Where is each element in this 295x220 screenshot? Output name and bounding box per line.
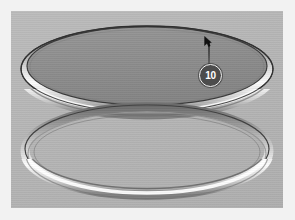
model-scene (11, 11, 283, 208)
arrow-cursor-icon (204, 36, 212, 47)
model-viewport[interactable]: 3D Model Viewport (11, 11, 283, 208)
callout-balloon[interactable]: 10 (199, 64, 222, 87)
viewer-frame: 3D Model Viewport (0, 0, 295, 220)
top-ring-group (21, 26, 273, 116)
torus-model-graphic (11, 11, 283, 208)
callout-balloon-label: 10 (205, 71, 216, 81)
screenshot-root: 3D Model Viewport (0, 0, 295, 220)
